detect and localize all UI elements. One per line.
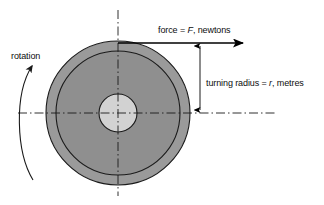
force-label: force = F, newtons bbox=[158, 26, 231, 35]
force-label-prefix: force = bbox=[158, 25, 187, 35]
rotation-arc bbox=[19, 66, 33, 180]
turning-radius-label-suffix: , metres bbox=[272, 78, 304, 88]
turning-radius-label: turning radius = r, metres bbox=[206, 79, 304, 88]
rotation-label: rotation bbox=[11, 52, 40, 61]
force-label-suffix: , newtons bbox=[193, 25, 231, 35]
turning-radius-label-prefix: turning radius = bbox=[206, 78, 269, 88]
torque-diagram: force = F, newtons turning radius = r, m… bbox=[0, 0, 324, 205]
